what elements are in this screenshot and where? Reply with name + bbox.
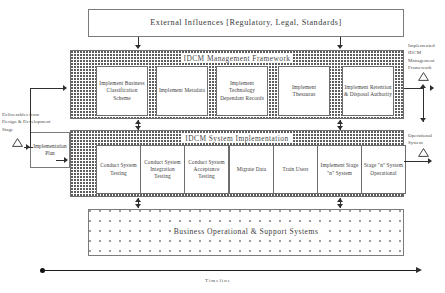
deliverables-note: Deliverables from Design & Development S… — [2, 111, 52, 133]
plan-to-system-arrow — [64, 157, 68, 163]
system-output-line — [404, 161, 428, 162]
task-implement-business-classification-scheme[interactable]: Implement Business Classification Scheme — [96, 66, 148, 116]
ext-connector-arrow-right — [337, 45, 343, 49]
timeline-axis — [43, 270, 418, 271]
milestone-triangle-icon-input — [12, 138, 23, 147]
framework-output-line — [404, 88, 423, 89]
plan-riser-horizontal-top — [30, 88, 64, 89]
task-migrate-data[interactable]: Migrate Data — [229, 145, 274, 194]
external-influences-box: External Influences [Regulatory, Legal, … — [88, 9, 404, 37]
support-systems-box: Business Operational & Support Systems — [88, 209, 404, 256]
support-systems-label: Business Operational & Support Systems — [171, 228, 322, 237]
task-conduct-system-testing[interactable]: Conduct System Testing — [96, 145, 141, 194]
support-link-arrow-down-left — [135, 204, 141, 208]
task-conduct-system-acceptance-testing[interactable]: Conduct System Acceptance Testing — [184, 145, 229, 194]
diagram-canvas: External Influences [Regulatory, Legal, … — [0, 0, 445, 293]
milestone-triangle-icon-framework — [418, 72, 429, 81]
plan-riser-arrow-framework — [63, 85, 67, 91]
plan-riser-vertical — [30, 88, 31, 147]
right-link-arrow-down — [420, 118, 426, 122]
task-train-users[interactable]: Train Users — [273, 145, 318, 194]
framework-output-arrow — [430, 85, 434, 91]
task-implement-stage-n-system[interactable]: Implement Stage "n" System — [317, 145, 362, 194]
implementation-plan-label: Implementation Plan — [32, 143, 68, 157]
support-link-arrow-down-right — [337, 204, 343, 208]
system-implementation-title: IDCM System Implementation — [71, 133, 403, 144]
system-output-arrow — [428, 158, 432, 164]
milestone-triangle-icon-system — [418, 148, 429, 157]
timeline-label: Timeline — [205, 278, 231, 283]
ext-connector-arrow-left — [135, 45, 141, 49]
task-stage-n-system-operational[interactable]: Stage "n" System Operational — [361, 145, 406, 194]
management-framework-title: IDCM Management Framework — [71, 53, 403, 64]
external-influences-label: External Influences [Regulatory, Legal, … — [150, 18, 341, 27]
task-implement-technology-dependant-records[interactable]: Implement Technology Dependant Records — [216, 66, 268, 116]
right-link-line — [423, 88, 424, 122]
task-implement-retention-disposal-authority[interactable]: Implement Retention & Disposal Authority — [342, 66, 394, 116]
task-implement-thesaurus[interactable]: Implement Thesaurus — [278, 66, 330, 116]
framework-milestone-note: Implemented IDCM Management Framework — [408, 42, 444, 71]
task-implement-metadata[interactable]: Implement Metadata — [156, 66, 208, 116]
system-milestone-note: Operational System — [408, 132, 444, 147]
timeline-arrow-head — [416, 267, 422, 273]
task-conduct-system-integration-testing[interactable]: Conduct System Integration Testing — [140, 145, 185, 194]
